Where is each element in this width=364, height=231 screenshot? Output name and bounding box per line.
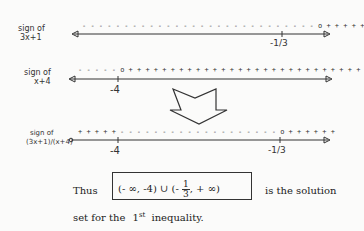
ordinal-suffix: st: [139, 211, 145, 219]
line2-suffix: inequality.: [151, 212, 203, 223]
row3-label-line2: (3x+1)/(x+4): [26, 138, 73, 147]
row2-label: sign of x+4: [24, 68, 51, 86]
line2-prefix: set for the: [73, 212, 125, 223]
interval-part2: , + ∞): [190, 183, 220, 194]
solution-interval: (- ∞, -4) ∪ (- 1 3 , + ∞): [118, 180, 220, 199]
row2-signs: - - - - - o + + + + + + + + + + + + + + …: [78, 66, 360, 74]
row1-label: sign of 3x+1: [18, 24, 45, 42]
row3-label-line1: sign of: [28, 129, 73, 138]
row3-signs-right: - - - - - - - - - - - - - - - - - - - o …: [120, 128, 335, 136]
row1-signs: - - - - - - - - - - - - - - - - - - - - …: [82, 22, 364, 30]
fraction-denominator: 3: [182, 190, 190, 199]
row2-tick-label: -4: [110, 84, 120, 95]
conclusion-prefix: Thus: [73, 185, 98, 196]
fraction-one-third: 1 3: [182, 180, 190, 199]
row1-label-line1: sign of: [18, 24, 45, 33]
row3-label: sign of (3x+1)/(x+4): [28, 129, 73, 147]
row3-signs-left: + + + + +: [78, 128, 116, 136]
number-line-3x-plus-1: [72, 31, 330, 37]
number-line-x-plus-4: [69, 76, 332, 82]
row3-tick-label-neg4: -4: [110, 145, 120, 156]
conclusion-line2: set for the 1st inequality.: [73, 211, 204, 223]
row2-label-line2: x+4: [24, 77, 51, 86]
down-arrow-icon: [170, 89, 227, 124]
interval-part1: (- ∞, -4) ∪ (-: [118, 183, 179, 194]
row2-label-line1: sign of: [24, 68, 51, 77]
row1-tick-label: -1/3: [270, 38, 288, 48]
conclusion-suffix: is the solution: [265, 185, 337, 196]
row1-label-line2: 3x+1: [18, 33, 45, 42]
number-line-quotient: [69, 137, 330, 143]
row3-tick-label-neg1-3: -1/3: [268, 145, 286, 155]
